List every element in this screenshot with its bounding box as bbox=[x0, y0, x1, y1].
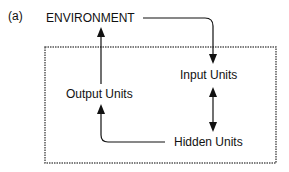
arrowhead-down-icon bbox=[209, 122, 217, 132]
arrowhead-up-icon bbox=[97, 104, 105, 114]
arrowhead-up-icon bbox=[209, 87, 217, 97]
node-input-units: Input Units bbox=[180, 68, 237, 82]
node-hidden-units: Hidden Units bbox=[174, 135, 243, 149]
node-environment: ENVIRONMENT bbox=[46, 11, 135, 25]
arrowhead-down-icon bbox=[209, 54, 217, 64]
node-output-units: Output Units bbox=[66, 87, 133, 101]
panel-label: (a) bbox=[8, 9, 23, 23]
edge-hidden-to-output bbox=[101, 113, 165, 142]
diagram-canvas bbox=[0, 0, 289, 172]
edge-environment-to-input bbox=[143, 18, 213, 55]
arrowhead-up-icon bbox=[97, 27, 105, 37]
